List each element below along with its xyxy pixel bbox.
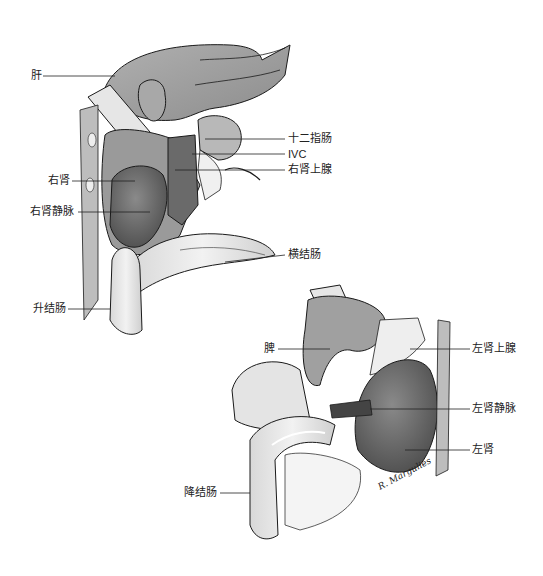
left-kidney-shape	[355, 360, 437, 472]
label-right-adrenal: 右肾上腺	[288, 164, 332, 176]
label-descending-colon: 降结肠	[184, 487, 217, 499]
label-ivc: IVC	[288, 148, 306, 160]
label-left-adrenal: 左肾上腺	[472, 343, 516, 355]
label-transverse-colon: 横结肠	[288, 249, 321, 261]
label-left-kidney: 左肾	[472, 444, 494, 456]
label-left-renal-vein: 左肾静脉	[472, 403, 516, 415]
label-right-kidney: 右肾	[48, 175, 70, 187]
label-spleen: 脾	[264, 343, 275, 355]
left-kidney-illustration: R. Margulies	[0, 0, 543, 576]
label-ascending-colon: 升结肠	[33, 303, 66, 315]
label-liver: 肝	[31, 70, 42, 82]
label-right-renal-vein: 右肾静脉	[30, 206, 74, 218]
anatomy-figure: R. Margulies 肝 十二指肠 IVC 右肾上腺 右肾 右肾静脉 横结肠…	[0, 0, 543, 576]
label-duodenum: 十二指肠	[288, 133, 332, 145]
